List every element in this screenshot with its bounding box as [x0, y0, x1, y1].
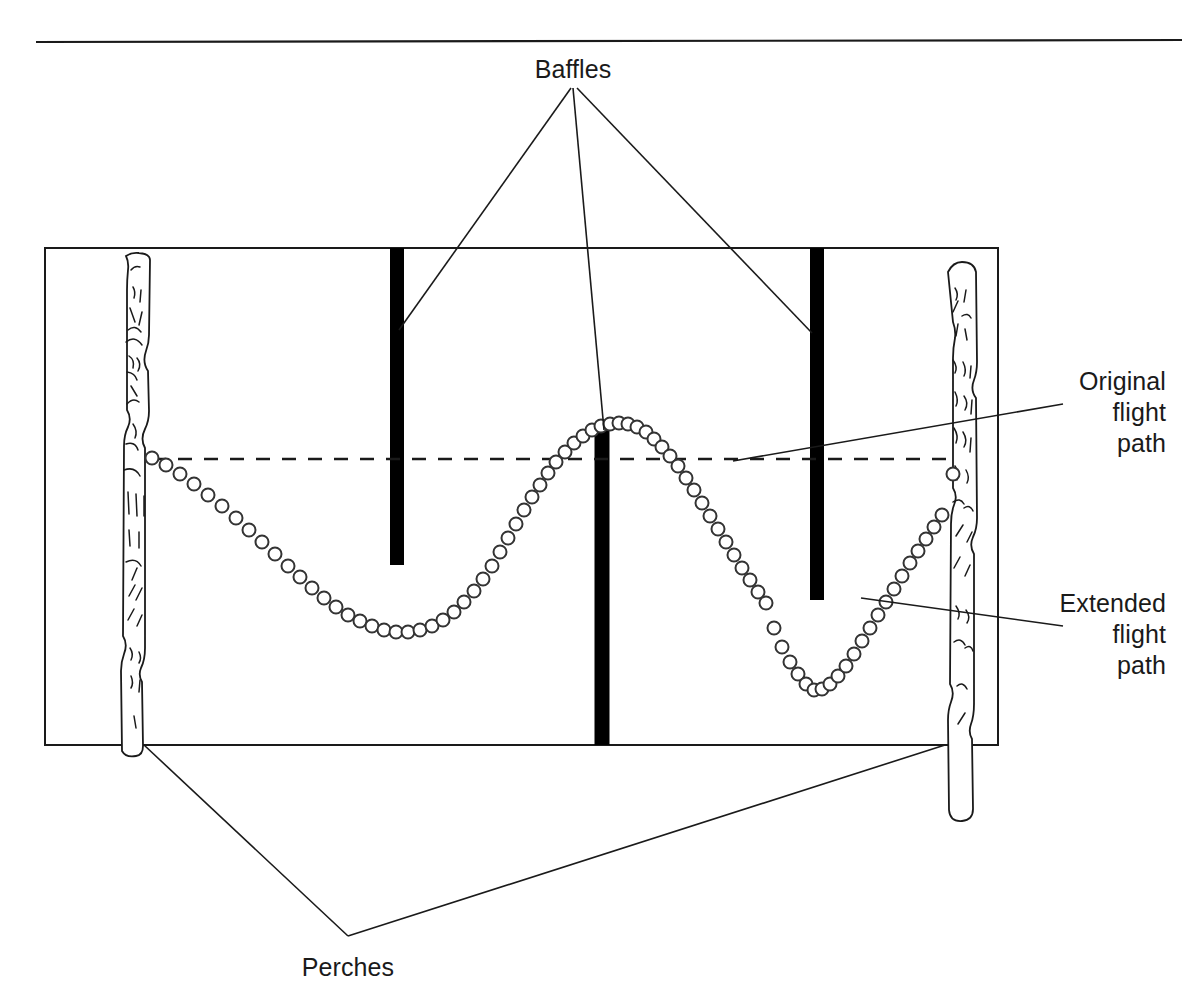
flight-path-marker: [920, 533, 933, 546]
flight-path-marker: [202, 489, 215, 502]
baffle-right: [810, 248, 824, 600]
flight-path-marker: [704, 510, 717, 523]
flight-path-marker: [282, 560, 295, 573]
label-extended-flight-path: Extended flight path: [1060, 589, 1166, 679]
label-extended-flight-path-line1: Extended: [1060, 589, 1166, 617]
baffle-middle: [595, 428, 610, 745]
flight-path-marker: [784, 656, 797, 669]
flight-path-marker: [872, 609, 885, 622]
label-extended-flight-path-line3: path: [1117, 651, 1166, 679]
baffles-flight-path-diagram: Baffles Perches Original flight path Ext…: [0, 0, 1201, 1000]
label-perches: Perches: [302, 953, 394, 981]
top-horizontal-rule: [36, 40, 1182, 42]
label-original-flight-path-line2: flight: [1113, 398, 1166, 426]
flight-path-marker: [494, 546, 507, 559]
flight-path-marker: [458, 596, 471, 609]
flight-path-marker: [486, 560, 499, 573]
flight-path-marker: [160, 459, 173, 472]
flight-path-marker: [230, 512, 243, 525]
flight-path-marker: [318, 592, 331, 605]
flight-path-marker: [146, 452, 159, 465]
flight-path-marker: [688, 484, 701, 497]
flight-path-marker: [736, 562, 749, 575]
flight-path-marker: [294, 571, 307, 584]
flight-path-marker: [510, 518, 523, 531]
flight-path-marker: [174, 468, 187, 481]
baffle-left: [390, 248, 404, 565]
label-original-flight-path-line1: Original: [1079, 367, 1166, 395]
perches-leader-lines: [144, 745, 945, 936]
flight-path-marker: [502, 532, 515, 545]
flight-path-marker: [256, 536, 269, 549]
flight-path-marker: [856, 635, 869, 648]
flight-path-marker: [912, 545, 925, 558]
flight-path-marker: [188, 478, 201, 491]
flight-path-marker: [768, 622, 781, 635]
flight-path-marker: [896, 570, 909, 583]
flight-path-marker: [760, 597, 773, 610]
flight-path-marker: [526, 491, 539, 504]
original-flight-path-leader: [733, 404, 1063, 461]
perch-left: [121, 253, 150, 757]
label-baffles: Baffles: [535, 55, 612, 83]
flight-path-marker: [468, 585, 481, 598]
flight-path-marker: [720, 536, 733, 549]
figure-root: Baffles Perches Original flight path Ext…: [0, 0, 1201, 1000]
flight-path-marker: [269, 548, 282, 561]
flight-path-marker: [696, 497, 709, 510]
label-extended-flight-path-line2: flight: [1113, 620, 1166, 648]
flight-path-marker: [848, 648, 861, 661]
flight-path-marker: [728, 549, 741, 562]
flight-path-marker: [928, 521, 941, 534]
flight-path-marker: [712, 523, 725, 536]
flight-path-marker: [680, 472, 693, 485]
flight-path-marker: [936, 509, 949, 522]
flight-path-marker: [402, 626, 415, 639]
flight-path-marker: [306, 582, 319, 595]
baffles-leader-lines: [399, 88, 812, 430]
flight-path-marker: [947, 468, 960, 481]
flight-path-marker: [840, 660, 853, 673]
flight-path-marker: [243, 524, 256, 537]
flight-path-marker: [518, 504, 531, 517]
label-original-flight-path-line3: path: [1117, 429, 1166, 457]
flight-path-marker: [864, 622, 877, 635]
flight-path-marker: [448, 606, 461, 619]
flight-path-marker: [330, 601, 343, 614]
flight-path-marker: [776, 641, 789, 654]
flight-path-marker: [477, 573, 490, 586]
flight-path-marker: [744, 574, 757, 587]
flight-path-marker: [904, 557, 917, 570]
cage-outline: [45, 248, 998, 745]
flight-path-marker: [378, 624, 391, 637]
perch-right: [948, 262, 977, 821]
flight-path-marker: [672, 460, 685, 473]
label-original-flight-path: Original flight path: [1079, 367, 1166, 457]
flight-path-marker: [216, 500, 229, 513]
flight-path-marker: [342, 609, 355, 622]
flight-path-marker: [534, 479, 547, 492]
flight-path-marker: [888, 583, 901, 596]
